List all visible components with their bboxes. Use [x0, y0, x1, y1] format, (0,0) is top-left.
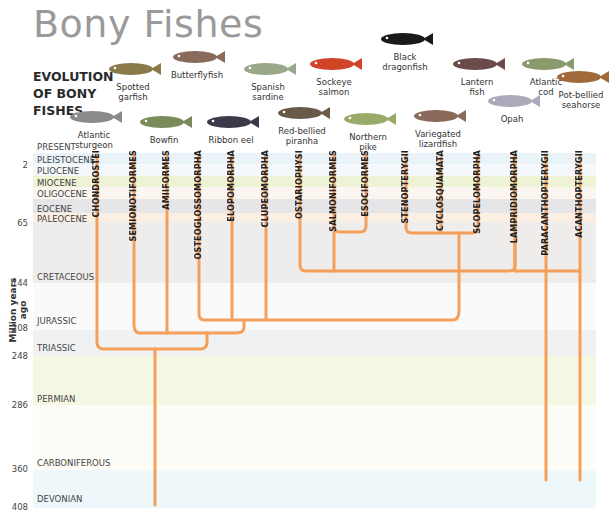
clade-label-clupeomorpha: CLUPEOMORPHA — [261, 150, 270, 227]
clade-label-chondrostei: CHONDROSTEI — [92, 150, 101, 218]
clade-label-lampridiomorpha: LAMPRIDIOMORPHA — [510, 150, 519, 243]
clade-label-salmoniformes: SALMONIFORMES — [329, 150, 338, 232]
clade-label-esociformes: ESOCIFORMES — [361, 150, 370, 217]
clade-label-acanthopterygii: ACANTHOPTERYGII — [575, 150, 584, 238]
clade-label-paracanthopterygii: PARACANTHOPTERYGII — [541, 150, 550, 256]
clade-label-amiiformes: AMIIFORMES — [162, 150, 171, 210]
clade-label-ostariophysi: OSTARIOPHYSI — [295, 150, 304, 219]
clade-label-semionotiformes: SEMIONOTIFORMES — [129, 150, 138, 242]
clade-label-cyclosquamata: CYCLOSQUAMATA — [436, 150, 445, 231]
tree-branch — [97, 155, 207, 349]
clade-label-elopomorpha: ELOPOMORPHA — [227, 150, 236, 222]
clade-label-osteoglossomorpha: OSTEOGLOSSOMORPHA — [194, 150, 203, 260]
clade-label-scopelomorpha: SCOPELOMORPHA — [473, 150, 482, 234]
clade-label-stenopterygii: STENOPTERYGII — [401, 150, 410, 224]
